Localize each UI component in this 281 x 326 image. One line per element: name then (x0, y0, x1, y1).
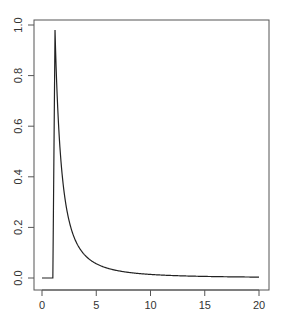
x-axis: 05101520 (39, 290, 265, 311)
y-tick-label: 0.0 (12, 270, 24, 285)
x-tick-label: 20 (253, 299, 265, 311)
y-tick-label: 0.8 (12, 68, 24, 83)
y-axis: 0.00.20.40.60.81.0 (12, 17, 34, 285)
x-tick-label: 0 (39, 299, 45, 311)
y-tick-label: 0.2 (12, 220, 24, 235)
y-tick-label: 0.4 (12, 169, 24, 184)
x-tick-label: 5 (93, 299, 99, 311)
y-tick-label: 0.6 (12, 119, 24, 134)
data-line (42, 30, 259, 278)
x-tick-label: 15 (199, 299, 211, 311)
x-tick-label: 10 (144, 299, 156, 311)
chart: 05101520 0.00.20.40.60.81.0 (0, 0, 281, 326)
y-tick-label: 1.0 (12, 17, 24, 32)
plot-frame (34, 20, 269, 290)
